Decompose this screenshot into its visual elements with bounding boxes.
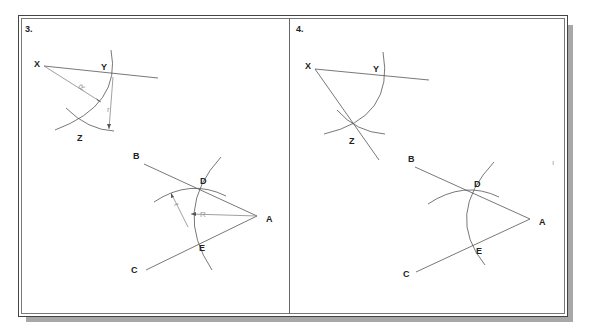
- outer-frame: [19, 16, 568, 317]
- label-a: A: [266, 214, 273, 224]
- panel-number: 3.: [25, 24, 33, 34]
- label-b: B: [408, 154, 415, 164]
- panel-4: 4. X Y Z B D A E C ı: [296, 24, 554, 279]
- label-x: X: [34, 59, 40, 69]
- arrow-head: [107, 124, 111, 129]
- line-ac: [416, 219, 530, 272]
- construction-diagram: 3. R r X Y Z R r B: [0, 0, 590, 333]
- arc-r-center-d: [428, 190, 499, 204]
- label-z: Z: [349, 136, 355, 146]
- angle-xyz-construction: R r X Y Z: [34, 50, 158, 143]
- arc-through-z: [337, 110, 385, 134]
- label-b: B: [133, 151, 140, 161]
- dimension-R: R: [200, 210, 206, 219]
- angle-bac-construction: R r B D A E C: [131, 151, 273, 275]
- label-y: Y: [101, 62, 107, 72]
- arc-R-center-a: [194, 157, 221, 270]
- label-c: C: [403, 269, 410, 279]
- angle-bac-bisector: B D A E C: [403, 154, 546, 279]
- chord-r-line: [109, 77, 113, 129]
- dimension-R: R: [77, 82, 88, 92]
- line-xz: [315, 69, 379, 160]
- label-d: D: [474, 179, 481, 189]
- dimension-r: r: [172, 201, 181, 208]
- label-d: D: [200, 176, 207, 186]
- label-y: Y: [373, 64, 379, 74]
- label-a: A: [539, 217, 546, 227]
- label-e: E: [476, 246, 482, 256]
- dimension-r: r: [107, 105, 110, 114]
- line-ab: [144, 164, 257, 216]
- arc-r-center-e: [154, 188, 226, 202]
- label-c: C: [131, 265, 138, 275]
- label-x: X: [305, 61, 311, 71]
- label-e: E: [199, 243, 205, 253]
- panel-number: 4.: [296, 24, 304, 34]
- arrow-head: [191, 212, 196, 216]
- label-z: Z: [77, 133, 83, 143]
- line-xy: [315, 69, 429, 80]
- frame-shadow: [26, 25, 573, 322]
- angle-xyz-copy: X Y Z: [305, 52, 429, 160]
- panel-3: 3. R r X Y Z R r B: [25, 24, 273, 275]
- stray-mark: ı: [552, 158, 554, 167]
- radius-r-line: [171, 193, 188, 227]
